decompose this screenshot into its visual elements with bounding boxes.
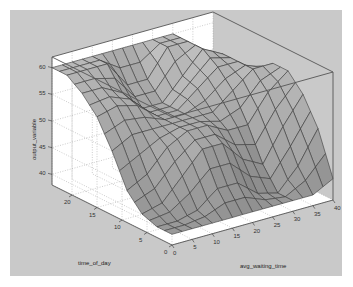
z-tick-label: 40 <box>39 170 46 176</box>
x-axis-label: avg_waiting_time <box>240 263 287 269</box>
x-tick-label: 25 <box>274 222 281 228</box>
x-tick-label: 30 <box>294 216 301 222</box>
y-tick-label: 0 <box>164 249 168 255</box>
x-tick-label: 0 <box>173 250 177 256</box>
x-tick-label: 20 <box>254 228 261 234</box>
y-tick-label: 15 <box>89 212 96 218</box>
y-tick-label: 5 <box>139 237 143 243</box>
z-tick-label: 50 <box>39 117 46 123</box>
x-tick-label: 5 <box>193 244 197 250</box>
z-tick-label: 55 <box>39 90 46 96</box>
x-tick-label: 40 <box>334 205 341 211</box>
x-tick-label: 15 <box>233 233 240 239</box>
x-tick-label: 10 <box>213 239 220 245</box>
y-axis-label: time_of_day <box>78 260 111 266</box>
x-tick-label: 35 <box>314 211 321 217</box>
surface-plot: 4045505560 05101520 0510152025303540 out… <box>0 0 353 287</box>
z-tick-label: 45 <box>39 144 46 150</box>
y-tick-label: 10 <box>114 224 121 230</box>
y-tick-label: 20 <box>64 199 71 205</box>
z-axis-ticks: 4045505560 <box>39 64 52 177</box>
z-tick-label: 60 <box>39 64 46 70</box>
z-axis-label: output_variable <box>31 118 37 160</box>
